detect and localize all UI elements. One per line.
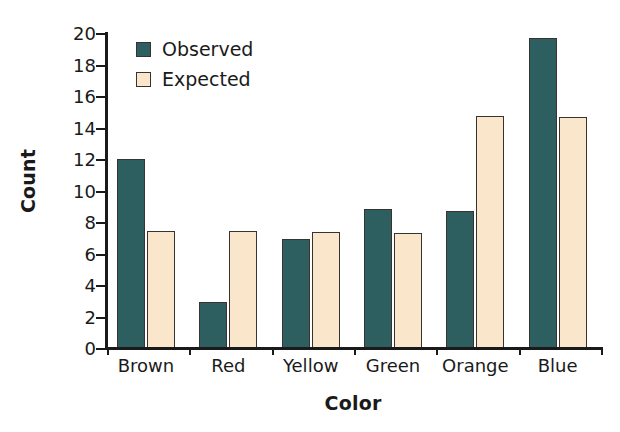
- x-tick-mark: [189, 347, 191, 355]
- y-tick-label: 8: [34, 212, 96, 233]
- chart-legend: Observed Expected: [136, 36, 253, 96]
- y-tick-mark: [96, 317, 105, 319]
- x-tick-mark: [436, 347, 438, 355]
- y-tick-label: 6: [34, 243, 96, 264]
- y-tick-mark: [96, 128, 105, 130]
- y-tick-mark: [96, 191, 105, 193]
- x-tick-mark: [601, 347, 603, 355]
- x-axis-line: [105, 347, 601, 350]
- bar-group: [436, 33, 518, 348]
- y-tick-label: 18: [34, 54, 96, 75]
- bar-brown-observed: [117, 159, 145, 348]
- legend-item-observed: Observed: [136, 36, 253, 62]
- category-label-blue: Blue: [538, 355, 578, 376]
- bar-orange-expected: [476, 116, 504, 348]
- y-tick-mark: [96, 222, 105, 224]
- y-tick-label: 10: [34, 180, 96, 201]
- y-tick-mark: [96, 285, 105, 287]
- bar-green-expected: [394, 233, 422, 348]
- x-tick-mark: [272, 347, 274, 355]
- legend-item-expected: Expected: [136, 66, 253, 92]
- category-label-yellow: Yellow: [283, 355, 338, 376]
- x-tick-mark: [107, 347, 109, 355]
- y-tick-mark: [96, 348, 105, 350]
- expected-swatch-icon: [136, 72, 151, 87]
- bar-group: [272, 33, 354, 348]
- x-tick-mark: [519, 347, 521, 355]
- bar-blue-expected: [559, 117, 587, 348]
- x-tick-mark: [354, 347, 356, 355]
- bar-brown-expected: [147, 231, 175, 348]
- y-tick-mark: [96, 33, 105, 35]
- bar-group: [519, 33, 601, 348]
- legend-label-observed: Observed: [162, 40, 253, 59]
- legend-label-expected: Expected: [162, 70, 251, 89]
- bar-orange-observed: [446, 211, 474, 348]
- bar-group: [354, 33, 436, 348]
- category-label-red: Red: [211, 355, 245, 376]
- y-tick-label: 14: [34, 117, 96, 138]
- y-tick-label: 12: [34, 149, 96, 170]
- bar-yellow-expected: [312, 232, 340, 348]
- y-tick-label: 2: [34, 306, 96, 327]
- category-label-green: Green: [366, 355, 421, 376]
- y-tick-mark: [96, 96, 105, 98]
- bar-red-observed: [199, 302, 227, 348]
- bar-red-expected: [229, 231, 257, 348]
- bar-chart-figure: Count 20181614121086420 BrownRedYellowGr…: [0, 0, 620, 432]
- bar-green-observed: [364, 209, 392, 348]
- x-axis-title: Color: [105, 392, 601, 414]
- y-tick-label: 20: [34, 23, 96, 44]
- observed-swatch-icon: [136, 42, 151, 57]
- bar-yellow-observed: [282, 239, 310, 348]
- category-label-orange: Orange: [442, 355, 509, 376]
- bar-blue-observed: [529, 38, 557, 348]
- y-tick-mark: [96, 254, 105, 256]
- y-tick-mark: [96, 159, 105, 161]
- y-tick-label: 16: [34, 86, 96, 107]
- y-tick-label: 0: [34, 338, 96, 359]
- y-tick-label: 4: [34, 275, 96, 296]
- category-label-brown: Brown: [118, 355, 175, 376]
- y-tick-mark: [96, 65, 105, 67]
